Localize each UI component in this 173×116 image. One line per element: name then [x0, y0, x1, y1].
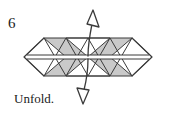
unfold-arrow-up-head — [87, 10, 99, 27]
origami-step-figure: 6 — [0, 0, 173, 116]
unfold-arrow-down-head — [77, 88, 89, 104]
caption-label: Unfold. — [14, 92, 54, 105]
